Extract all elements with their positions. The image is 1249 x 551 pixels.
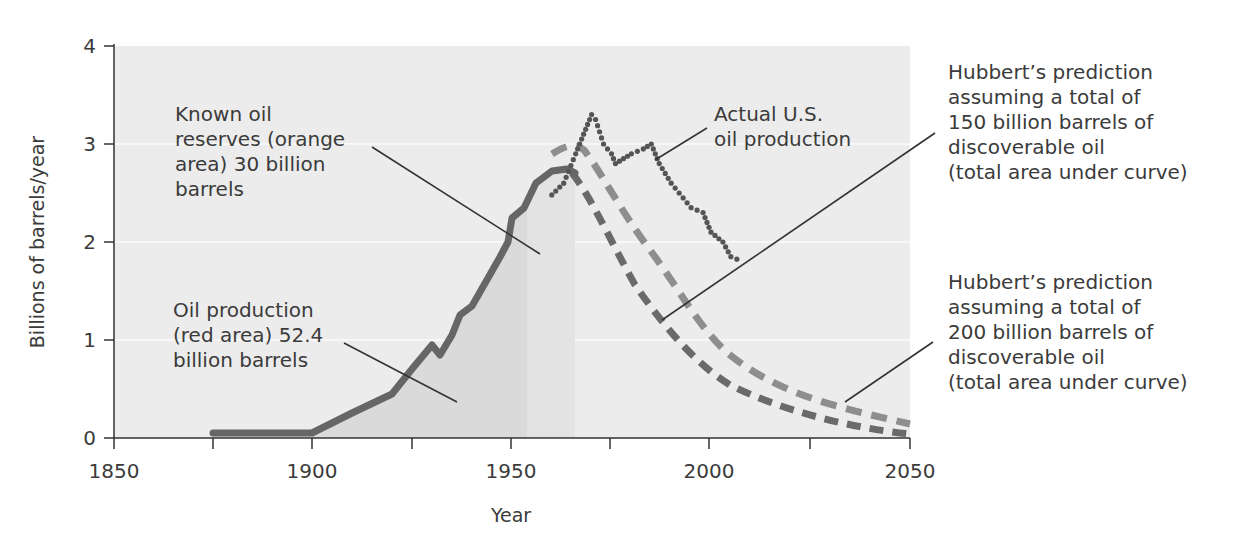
hubbert-150-annotation: Hubbert’s prediction assuming a total of… (948, 60, 1188, 185)
actual-production-annotation: Actual U.S. oil production (714, 102, 851, 152)
x-tick-2050: 2050 (885, 459, 936, 483)
x-tick-1950: 1950 (486, 459, 537, 483)
hubbert-200-annotation: Hubbert’s prediction assuming a total of… (948, 270, 1188, 395)
x-tick-1900: 1900 (287, 459, 338, 483)
production-annotation: Oil production (red area) 52.4 billion b… (173, 298, 323, 373)
x-tick-2000: 2000 (684, 459, 735, 483)
y-tick-3: 3 (83, 132, 96, 156)
x-tick-1850: 1850 (89, 459, 140, 483)
y-axis-title: Billions of barrels/year (26, 136, 48, 349)
x-axis-title: Year (490, 504, 531, 526)
y-tick-1: 1 (83, 328, 96, 352)
y-tick-4: 4 (83, 34, 96, 58)
reserves-annotation: Known oil reserves (orange area) 30 bill… (175, 102, 345, 202)
reserves-area (527, 169, 575, 438)
y-tick-0: 0 (83, 426, 96, 450)
y-tick-2: 2 (83, 230, 96, 254)
